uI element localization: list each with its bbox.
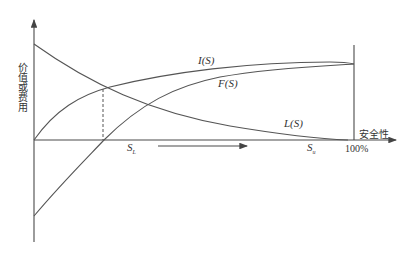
hundred-percent-tick: 100%: [345, 143, 368, 154]
x-axis-label: 安全性: [359, 126, 389, 141]
label-L: L(S): [284, 117, 303, 129]
curve-I: [34, 62, 354, 140]
safety-value-cost-diagram: [0, 0, 416, 256]
marker-SL: SL: [127, 141, 136, 155]
marker-Su: Su: [307, 141, 316, 155]
label-F: F(S): [218, 77, 238, 89]
y-axis-label: 价值或费用: [14, 62, 29, 112]
marker-Su-sub: u: [313, 149, 316, 155]
marker-SL-sub: L: [133, 149, 136, 155]
label-I: I(S): [198, 54, 215, 66]
